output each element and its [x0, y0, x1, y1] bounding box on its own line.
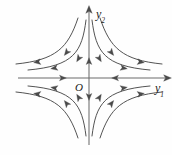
trajectory-q4-outer-arrow-1-icon: [107, 99, 116, 108]
trajectory-q1-outer-arrow-2-icon: [137, 59, 145, 66]
trajectory-q2-inner-arrow-1-icon: [74, 54, 82, 63]
trajectory-q4-outer: [100, 92, 162, 138]
trajectory-q2-outer-arrow-2-icon: [33, 59, 41, 66]
phase-portrait-figure: y2 y1 O: [0, 0, 172, 155]
y1-axis-label-subscript: 1: [160, 90, 164, 99]
trajectory-q1-outer: [100, 18, 162, 64]
axes-group: [18, 6, 171, 145]
trajectory-q1-outer-arrow-1-icon: [107, 48, 116, 57]
origin-label: O: [75, 82, 83, 93]
trajectory-q3-inner-arrow-1-icon: [74, 93, 82, 102]
y2-axis-label-subscript: 2: [101, 16, 105, 25]
trajectory-q1-inner-arrow-1-icon: [95, 54, 103, 63]
trajectory-q4-outer-arrow-2-icon: [137, 91, 145, 98]
trajectory-q4-inner-arrow-1-icon: [95, 93, 103, 102]
trajectory-q3-outer: [16, 92, 78, 138]
y1-axis-label: y1: [155, 82, 164, 97]
trajectory-q2-outer: [16, 18, 78, 64]
trajectory-q2-outer-arrow-1-icon: [62, 48, 71, 57]
trajectory-q3-outer-arrow-1-icon: [62, 99, 71, 108]
y2-axis-label: y2: [96, 8, 105, 23]
phase-portrait-canvas: [0, 0, 172, 155]
trajectory-q3-outer-arrow-2-icon: [33, 91, 41, 98]
